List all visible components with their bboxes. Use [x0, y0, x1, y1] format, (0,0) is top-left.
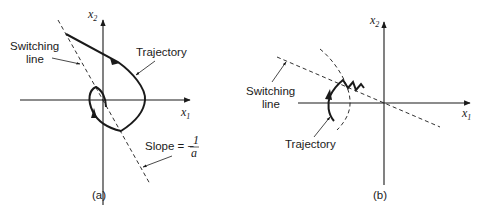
- x2-label-a: x2: [87, 7, 97, 23]
- x2-label-b: x2: [369, 13, 379, 29]
- phase-plane-figure: x2 x1 Switching line Trajectory Slope = …: [0, 0, 481, 213]
- switching-line-label-a: Switching: [10, 40, 59, 52]
- trajectory-arrow-b: [325, 89, 332, 100]
- x1-label-b: x1: [461, 106, 471, 122]
- caption-b: (b): [373, 189, 387, 201]
- trajectory-a: [66, 34, 145, 131]
- trajectory-pointer-b: [314, 117, 330, 137]
- trajectory-label-a: Trajectory: [136, 46, 187, 58]
- slope-numerator: 1: [193, 133, 199, 147]
- panel-a: x2 x1 Switching line Trajectory Slope = …: [10, 7, 199, 205]
- trajectory-pointer-a: [136, 61, 155, 75]
- switching-line-label-b-2: line: [262, 98, 280, 110]
- switching-line-label-a-2: line: [26, 53, 44, 65]
- switching-line-a: [58, 20, 150, 184]
- switching-line-pointer-a: [52, 58, 80, 64]
- panel-b: x2 x1 Switching line Trajectory (b): [246, 13, 471, 201]
- trajectory-label-b: Trajectory: [285, 138, 336, 150]
- slope-denominator: a: [191, 146, 197, 160]
- slope-label-a: Slope = −: [145, 140, 195, 152]
- switching-line-pointer-b: [272, 62, 286, 82]
- x1-label-a: x1: [180, 105, 190, 121]
- trajectory-b: [328, 80, 364, 121]
- switching-line-b: [277, 57, 440, 127]
- slope-pointer-a: [143, 156, 172, 167]
- caption-a: (a): [92, 189, 106, 201]
- switching-line-label-b: Switching: [246, 85, 295, 97]
